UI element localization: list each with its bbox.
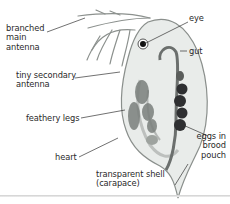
label-branched-main-antenna: branched main antenna <box>6 24 44 52</box>
label-line: (carapace) <box>96 179 165 188</box>
label-gut: gut <box>189 47 202 56</box>
label-line: antenna <box>16 80 76 89</box>
label-transparent-shell: transparent shell (carapace) <box>96 170 165 189</box>
heart-graphic <box>146 135 158 145</box>
label-eye: eye <box>189 14 204 23</box>
label-tiny-secondary-antenna: tiny secondary antenna <box>16 71 76 90</box>
label-line: antenna <box>6 43 44 52</box>
label-eggs-in-brood-pouch: eggs in brood pouch <box>196 132 226 160</box>
label-feathery-legs: feathery legs <box>26 114 79 123</box>
label-line: pouch <box>196 151 226 160</box>
label-heart: heart <box>55 153 77 162</box>
bottom-divider <box>0 195 230 197</box>
daphnia-diagram: branched main antenna tiny secondary ant… <box>0 0 230 204</box>
